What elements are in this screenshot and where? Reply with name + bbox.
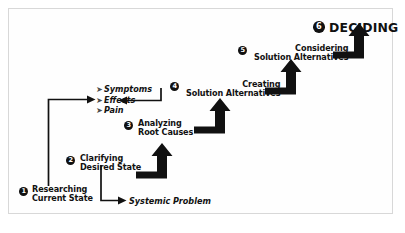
chevron-right-icon: ➤ <box>96 95 104 106</box>
systemic-problem-label: Systemic Problem <box>129 196 211 206</box>
diagram-canvas: 1 Researching Current State 2 Clarifying… <box>0 0 405 233</box>
chevron-right-icon: ➤ <box>96 105 104 116</box>
block-arrow-step3-to-step4 <box>194 98 231 134</box>
chevron-right-icon: ➤ <box>96 84 104 95</box>
step-label-2-line2: Desired State <box>80 162 141 172</box>
step-label-1: Researching Current State <box>32 185 93 202</box>
step-label-6: DECIDING <box>329 20 399 35</box>
step-label-4-line2: Solution Alternatives <box>186 89 280 98</box>
findings-item-2: Pain <box>104 105 123 115</box>
findings-item-1: Effects <box>104 95 135 105</box>
findings-item-0: Symptoms <box>104 84 152 94</box>
block-arrow-step2-to-step3 <box>136 143 173 179</box>
step-label-3: Analyzing Root Causes <box>138 119 193 136</box>
step-label-5-line2: Solution Alternatives <box>254 53 348 62</box>
findings-list: ➤Symptoms ➤Effects ➤Pain <box>96 84 152 116</box>
step-number-6: 6 <box>313 21 325 33</box>
list-item: ➤Symptoms <box>96 84 152 95</box>
list-item: ➤Pain <box>96 105 152 116</box>
list-item: ➤Effects <box>96 95 152 106</box>
step-label-4: Creating Solution Alternatives <box>186 80 280 97</box>
thin-arrow-research-to-findings <box>49 95 96 186</box>
step-label-2: Clarifying Desired State <box>80 154 141 171</box>
step-label-5: Considering Solution Alternatives <box>254 44 348 61</box>
step-label-3-line2: Root Causes <box>138 127 193 137</box>
step-label-1-line2: Current State <box>32 193 93 203</box>
